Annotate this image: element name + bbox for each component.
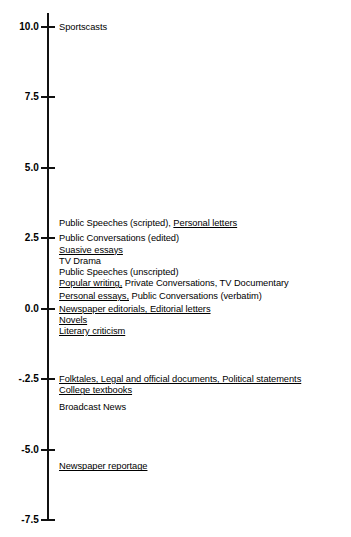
label-segment: Sportscasts — [59, 22, 107, 32]
label-segment-underlined: College textbooks — [59, 385, 132, 395]
vertical-axis-line — [47, 13, 49, 521]
label-segment-underlined: Popular writing, — [59, 278, 122, 288]
label-segment-underlined: Novels — [59, 315, 87, 325]
label-segment: Public Conversations (verbatim) — [129, 291, 262, 301]
data-point-label: Personal essays, Public Conversations (v… — [59, 291, 262, 302]
label-segment: TV Drama — [59, 256, 101, 266]
axis-tick-label: 0.0 — [0, 304, 39, 314]
label-segment: Broadcast News — [59, 402, 126, 412]
axis-tick-label: 7.5 — [0, 92, 39, 102]
axis-tick — [41, 378, 55, 380]
axis-tick-label: 5.0 — [0, 163, 39, 173]
label-segment-underlined: Newspaper editorials, Editorial letters — [59, 304, 211, 314]
axis-tick — [41, 237, 55, 239]
axis-tick-label: 2.5 — [0, 233, 39, 243]
data-point-label: Folktales, Legal and official documents,… — [59, 374, 301, 385]
data-point-label: TV Drama — [59, 256, 101, 267]
label-segment: Public Conversations (edited) — [59, 233, 179, 243]
axis-tick — [41, 26, 55, 28]
label-segment: Public Speeches (unscripted) — [59, 267, 179, 277]
label-segment-underlined: Personal essays, — [59, 291, 129, 301]
data-point-label: Suasive essays — [59, 245, 123, 256]
axis-tick-label: -.2.5 — [0, 374, 39, 384]
axis-tick — [41, 96, 55, 98]
axis-tick-label: -5.0 — [0, 445, 39, 455]
axis-tick-label: 10.0 — [0, 22, 39, 32]
axis-tick — [41, 449, 55, 451]
label-segment: Private Conversations, TV Documentary — [122, 278, 288, 288]
data-point-label: Public Speeches (unscripted) — [59, 267, 179, 278]
label-segment-underlined: Personal letters — [173, 218, 237, 228]
label-segment: Public Speeches (scripted), — [59, 218, 173, 228]
dimension-score-plot: 10.07.55.02.50.0-.2.5-5.0-7.5 Sportscast… — [0, 0, 351, 537]
data-point-label: Public Conversations (edited) — [59, 233, 179, 244]
data-point-label: Newspaper editorials, Editorial letters — [59, 304, 211, 315]
data-point-label: Novels — [59, 315, 87, 326]
data-point-label: Popular writing, Private Conversations, … — [59, 278, 289, 289]
data-point-label: Literary criticism — [59, 326, 125, 337]
label-segment-underlined: Literary criticism — [59, 326, 125, 336]
label-segment-underlined: Folktales, Legal and official documents,… — [59, 374, 301, 384]
data-point-label: Public Speeches (scripted), Personal let… — [59, 218, 237, 229]
data-point-label: Newspaper reportage — [59, 461, 147, 472]
label-segment-underlined: Newspaper reportage — [59, 461, 147, 471]
axis-tick — [41, 308, 55, 310]
data-point-label: Sportscasts — [59, 22, 107, 33]
axis-tick — [41, 167, 55, 169]
axis-tick — [41, 519, 55, 521]
data-point-label: College textbooks — [59, 385, 132, 396]
label-segment-underlined: Suasive essays — [59, 245, 123, 255]
axis-tick-label: -7.5 — [0, 515, 39, 525]
data-point-label: Broadcast News — [59, 402, 126, 413]
